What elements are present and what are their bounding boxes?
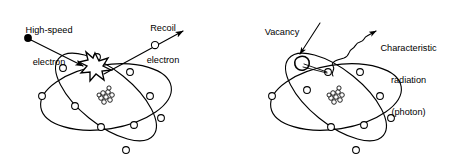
characteristic-radiation-label-line3: (photon) (369, 107, 448, 118)
right-nucleus (327, 86, 344, 104)
electron (353, 147, 360, 154)
electron (304, 87, 311, 94)
electron (325, 69, 332, 76)
characteristic-radiation-label-line1: Characteristic (369, 43, 448, 54)
recoil-electron-label-line2: electron (128, 55, 198, 66)
recoil-electron-label: Recoil electron (128, 2, 198, 87)
characteristic-radiation-label: Characteristic radiation (photon) (369, 22, 448, 139)
electron (39, 93, 46, 100)
electron (357, 69, 364, 76)
electron (361, 122, 368, 129)
electron (98, 124, 105, 131)
electron (123, 147, 130, 154)
electron (269, 93, 276, 100)
electron (328, 124, 335, 131)
left-nucleus (97, 86, 114, 104)
high-speed-electron-label: High-speed electron (6, 4, 92, 89)
electron (147, 93, 154, 100)
high-speed-electron-label-line2: electron (6, 57, 92, 68)
characteristic-radiation-label-line2: radiation (369, 75, 448, 86)
electron (72, 103, 79, 110)
recoil-electron-label-line1: Recoil (128, 23, 198, 34)
vacancy-label-line1: Vacancy (250, 27, 314, 38)
electron (131, 122, 138, 129)
vacancy-label: Vacancy (250, 6, 314, 59)
electron (158, 115, 165, 122)
x-ray-production-diagram: High-speed electron Recoil electron Vaca… (0, 0, 449, 163)
high-speed-electron-label-line1: High-speed (6, 25, 92, 36)
